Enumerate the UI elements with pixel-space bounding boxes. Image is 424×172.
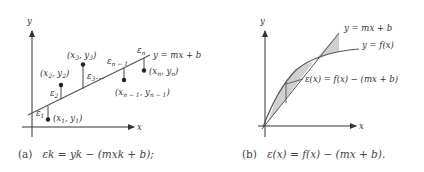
caption-b: (b)ε(x) = f(x) − (mx + b). — [242, 148, 385, 160]
error-label-2: ε2 — [50, 88, 59, 99]
panel-b-line-label: y = mx + b — [343, 23, 392, 33]
error-label-n: εn — [137, 45, 146, 56]
data-point-n-1 — [122, 78, 126, 82]
function-curve — [263, 49, 359, 127]
panel-a-diagram: y x y = mx + b ε1 (x1, y1) ε2 (x2, y2) ε… — [22, 16, 201, 137]
panel-a-x-label: x — [137, 122, 142, 132]
point-label-1: (x1, y1) — [53, 113, 82, 124]
figure-canvas: y x y = mx + b ε1 (x1, y1) ε2 (x2, y2) ε… — [0, 0, 424, 172]
panel-b-x-label: x — [359, 121, 364, 131]
caption-b-tag: (b) — [242, 148, 257, 160]
data-point-2 — [59, 83, 63, 87]
data-point-3 — [81, 62, 85, 66]
error-label-n-1: εn − 1 — [107, 56, 128, 67]
error-label-3: ε3… — [87, 71, 104, 82]
caption-a: (a)εk = yk − (mxk + b); — [18, 148, 154, 160]
panel-b-y-label: y — [259, 16, 265, 26]
panel-b-error-label: ε(x) = f(x) − (mx + b) — [305, 74, 398, 84]
caption-a-equation: εk = yk − (mxk + b); — [42, 148, 153, 160]
point-label-n-1: (xn − 1, yn − 1) — [115, 87, 170, 98]
error-label-1: ε1 — [36, 108, 44, 119]
panel-b-curve-label: y = f(x) — [361, 40, 394, 50]
caption-b-equation: ε(x) = f(x) − (mx + b). — [267, 148, 385, 160]
data-point-1 — [46, 117, 50, 121]
data-point-n — [142, 68, 146, 72]
point-label-2: (x2, y2) — [40, 68, 69, 79]
caption-a-tag: (a) — [18, 148, 32, 160]
regression-line — [28, 55, 150, 115]
point-label-3: (x3, y3) — [67, 50, 96, 61]
panel-b-diagram: y x y = mx + b y = f(x) ε(x) = f(x) − (m… — [258, 16, 398, 137]
panel-a-line-label: y = mx + b — [152, 50, 201, 60]
point-label-n: (xn, yn) — [149, 66, 178, 77]
panel-a-y-label: y — [26, 16, 32, 26]
